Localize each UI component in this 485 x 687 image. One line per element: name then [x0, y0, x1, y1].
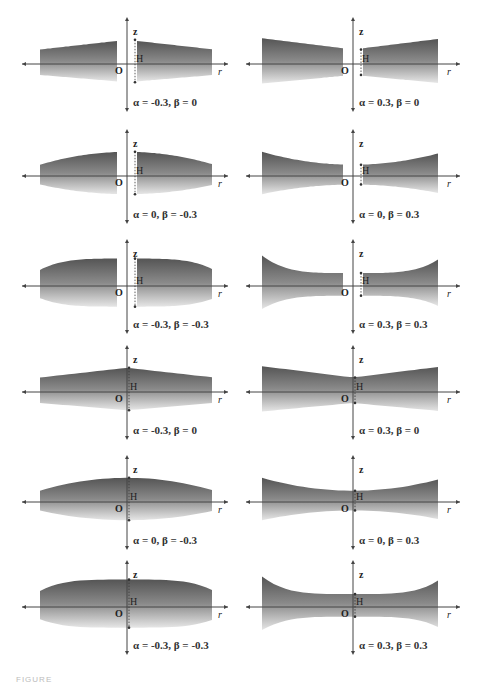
diagram-panel-r4c2: zrOHα = 0.3, β = 0 [242, 340, 484, 450]
r-axis-right-arrow-icon [456, 174, 460, 178]
z-axis-up-arrow-icon [125, 455, 129, 459]
cross-section-diagram [0, 5, 242, 115]
origin-label: O [115, 177, 123, 188]
z-axis-label: z [133, 26, 137, 37]
body-left-half [262, 38, 343, 83]
z-axis-label: z [133, 138, 137, 149]
height-marker-bottom-dot-icon [128, 409, 131, 412]
z-axis-up-arrow-icon [351, 345, 355, 349]
body-left-half [262, 152, 343, 194]
r-axis-left-arrow-icon [246, 605, 250, 609]
r-axis-label: r [447, 394, 451, 405]
z-axis-up-arrow-icon [351, 455, 355, 459]
parameter-label: α = -0.3, β = 0 [133, 96, 197, 108]
r-axis-label: r [447, 504, 451, 515]
z-axis-down-arrow-icon [351, 108, 355, 112]
height-marker-top-dot-icon [128, 578, 131, 581]
r-axis-label: r [218, 504, 222, 515]
z-axis-up-arrow-icon [351, 17, 355, 21]
diagram-panel-r6c2: zrOHα = 0.3, β = 0.3 [242, 555, 484, 665]
parameter-label: α = -0.3, β = 0 [133, 424, 197, 436]
height-label: H [356, 491, 363, 502]
height-marker-bottom-dot-icon [128, 519, 131, 522]
body-solid [262, 576, 438, 630]
height-marker-bottom-dot-icon [360, 183, 363, 186]
z-axis-label: z [133, 464, 137, 475]
r-axis-right-arrow-icon [224, 390, 228, 394]
height-marker-top-dot-icon [360, 272, 363, 275]
height-label: H [362, 165, 369, 176]
parameter-label: α = 0.3, β = 0.3 [359, 318, 427, 330]
r-axis-right-arrow-icon [224, 284, 228, 288]
diagram-panel-r2c1: zrOHα = 0, β = -0.3 [0, 117, 242, 227]
height-label: H [136, 165, 143, 176]
r-axis-right-arrow-icon [456, 605, 460, 609]
z-axis-up-arrow-icon [125, 560, 129, 564]
r-axis-right-arrow-icon [224, 500, 228, 504]
z-axis-down-arrow-icon [125, 436, 129, 440]
height-label: H [136, 53, 143, 64]
height-marker-bottom-dot-icon [134, 81, 137, 84]
origin-label: O [115, 393, 123, 404]
origin-label: O [115, 65, 123, 76]
parameter-label: α = -0.3, β = -0.3 [133, 318, 209, 330]
z-axis-label: z [359, 464, 363, 475]
z-axis-up-arrow-icon [125, 17, 129, 21]
height-label: H [356, 596, 363, 607]
body-right-half [363, 260, 438, 306]
diagram-panel-r3c1: zrOHα = -0.3, β = -0.3 [0, 227, 242, 337]
z-axis-up-arrow-icon [125, 129, 129, 133]
z-axis-label: z [359, 26, 363, 37]
height-marker-bottom-dot-icon [354, 509, 357, 512]
r-axis-left-arrow-icon [246, 284, 250, 288]
height-marker-bottom-dot-icon [134, 305, 137, 308]
r-axis-right-arrow-icon [224, 174, 228, 178]
r-axis-label: r [447, 288, 451, 299]
height-label: H [356, 381, 363, 392]
parameter-label: α = 0, β = -0.3 [133, 208, 197, 220]
z-axis-label: z [359, 569, 363, 580]
body-solid [40, 368, 212, 410]
parameter-label: α = 0, β = -0.3 [133, 534, 197, 546]
height-marker-bottom-dot-icon [360, 294, 363, 297]
origin-label: O [115, 608, 123, 619]
height-label: H [136, 275, 143, 286]
z-axis-down-arrow-icon [125, 546, 129, 550]
height-marker-top-dot-icon [354, 376, 357, 379]
z-axis-label: z [359, 248, 363, 259]
height-marker-top-dot-icon [128, 367, 131, 370]
z-axis-label: z [133, 569, 137, 580]
z-axis-down-arrow-icon [351, 546, 355, 550]
origin-label: O [115, 503, 123, 514]
body-right-half [363, 39, 438, 83]
r-axis-label: r [218, 609, 222, 620]
height-label: H [362, 275, 369, 286]
origin-label: O [341, 608, 349, 619]
height-marker-top-dot-icon [128, 477, 131, 480]
body-right-half [137, 259, 212, 307]
origin-label: O [115, 287, 123, 298]
r-axis-label: r [218, 288, 222, 299]
height-marker-top-dot-icon [354, 593, 357, 596]
diagram-panel-r2c2: zrOHα = 0, β = 0.3 [242, 117, 484, 227]
diagram-panel-r1c2: zrOHα = 0.3, β = 0 [242, 5, 484, 115]
origin-label: O [341, 503, 349, 514]
z-axis-up-arrow-icon [351, 239, 355, 243]
r-axis-left-arrow-icon [246, 174, 250, 178]
r-axis-label: r [218, 66, 222, 77]
height-marker-bottom-dot-icon [128, 626, 131, 629]
z-axis-up-arrow-icon [351, 560, 355, 564]
origin-label: O [341, 393, 349, 404]
r-axis-left-arrow-icon [246, 390, 250, 394]
origin-label: O [341, 177, 349, 188]
r-axis-right-arrow-icon [456, 500, 460, 504]
r-axis-left-arrow-icon [22, 174, 26, 178]
diagram-panel-r5c2: zrOHα = 0, β = 0.3 [242, 450, 484, 560]
z-axis-up-arrow-icon [125, 345, 129, 349]
r-axis-left-arrow-icon [22, 500, 26, 504]
height-marker-bottom-dot-icon [134, 193, 137, 196]
z-axis-down-arrow-icon [351, 220, 355, 224]
z-axis-down-arrow-icon [351, 651, 355, 655]
height-marker-top-dot-icon [134, 39, 137, 42]
origin-label: O [341, 65, 349, 76]
